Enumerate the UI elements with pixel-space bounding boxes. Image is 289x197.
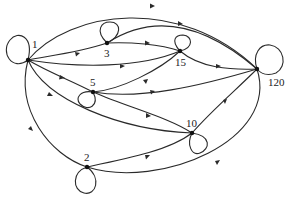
loop-15 xyxy=(175,35,191,51)
arrow-icon xyxy=(145,155,150,160)
label-120: 120 xyxy=(268,76,285,88)
arrow-icon xyxy=(215,160,220,165)
node-5 xyxy=(91,90,95,94)
node-2 xyxy=(85,165,89,169)
edges xyxy=(25,18,260,173)
self-loops xyxy=(6,22,283,193)
arrow-icon xyxy=(28,126,33,131)
node-1 xyxy=(26,58,30,62)
loop-10 xyxy=(190,133,208,153)
arrow-icon xyxy=(150,4,155,9)
arrow-icon xyxy=(59,75,65,80)
label-1: 1 xyxy=(32,38,38,50)
edge-2-10 xyxy=(87,133,192,167)
node-10 xyxy=(190,131,194,135)
label-2: 2 xyxy=(84,151,90,163)
loop-3 xyxy=(100,22,119,43)
node-15 xyxy=(178,49,182,53)
arrow-icon xyxy=(120,64,125,69)
edge-2-120 xyxy=(87,69,260,173)
edge-1-2 xyxy=(25,60,87,167)
nodes xyxy=(26,41,259,169)
edge-3-15 xyxy=(107,43,180,51)
label-3: 3 xyxy=(104,47,110,59)
label-5: 5 xyxy=(90,76,96,88)
label-10: 10 xyxy=(186,117,198,129)
edge-5-120 xyxy=(93,69,257,94)
arrow-icon xyxy=(47,92,53,96)
edge-1-3 xyxy=(28,43,107,60)
label-15: 15 xyxy=(175,56,187,68)
loop-120 xyxy=(255,45,283,74)
divisibility-graph: 1 3 15 5 10 2 120 xyxy=(0,0,289,197)
node-3 xyxy=(105,41,109,45)
arrow-icon xyxy=(143,79,148,84)
arrow-icon xyxy=(75,52,80,57)
loop-2 xyxy=(75,167,96,193)
edge-1-10 xyxy=(28,60,192,133)
node-120 xyxy=(255,67,259,71)
